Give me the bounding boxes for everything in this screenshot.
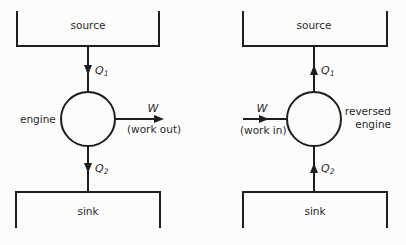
left-sink-reservoir: sink (16, 192, 160, 228)
left-work-symbol: W (148, 102, 160, 115)
right-work-arrow-right-icon (259, 115, 269, 123)
left-q2-arrow-down-icon (84, 163, 92, 173)
right-engine-circle (287, 92, 341, 146)
right-work-symbol: W (257, 102, 269, 115)
right-source-reservoir: source (243, 11, 387, 46)
right-source-label: source (297, 19, 332, 31)
left-engine-circle (61, 92, 115, 146)
right-reversed-engine: source Q1 reversed engine W (work in) Q2… (240, 11, 391, 228)
left-source-reservoir: source (17, 11, 159, 46)
right-q2-arrow-up-icon (310, 163, 318, 173)
engine-diagram: source Q1 engine W (work out) Q2 sink so… (0, 0, 406, 245)
left-q1-arrow-down-icon (84, 65, 92, 75)
left-heat-engine: source Q1 engine W (work out) Q2 sink (16, 11, 181, 228)
right-q1-arrow-up-icon (310, 65, 318, 75)
right-work-caption: (work in) (240, 124, 287, 136)
left-work-caption: (work out) (127, 123, 181, 135)
right-sink-label: sink (304, 205, 326, 217)
right-sink-reservoir: sink (243, 192, 387, 228)
left-q2-label: Q2 (95, 162, 109, 176)
right-engine-label-line2: engine (355, 118, 391, 130)
left-engine-label: engine (20, 113, 56, 125)
left-work-arrow-right-icon (154, 115, 164, 123)
left-source-label: source (71, 19, 106, 31)
right-q1-label: Q1 (321, 64, 334, 78)
right-engine-label-line1: reversed (345, 105, 391, 117)
right-q2-label: Q2 (321, 162, 335, 176)
left-q1-label: Q1 (95, 64, 108, 78)
left-sink-label: sink (77, 205, 99, 217)
